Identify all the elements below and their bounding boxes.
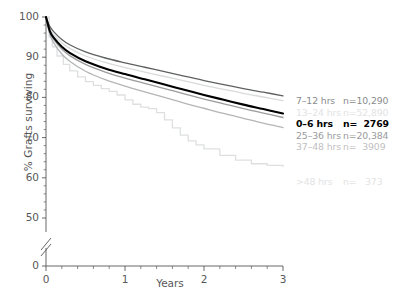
axes-group	[41, 17, 283, 271]
legend-item-count: n= 373	[343, 176, 383, 187]
survival-chart-figure: % Grafts surviving Years 10090807060500 …	[0, 0, 402, 296]
legend: 7–12 hrsn=10,29013–24 hrsn=52,8900–6 hrs…	[296, 95, 402, 188]
legend-item-count: n=10,290	[343, 95, 388, 106]
legend-item-count: n=20,384	[343, 130, 388, 141]
legend-item: 7–12 hrsn=10,290	[296, 95, 402, 107]
x-tick-label: 1	[115, 273, 135, 285]
y-tick-label: 90	[13, 50, 39, 62]
legend-item-label: 25–36 hrs	[296, 130, 343, 141]
y-tick-label: 60	[13, 171, 39, 183]
legend-item-label: 37–48 hrs	[296, 141, 343, 152]
legend-item: 0–6 hrsn= 2769	[296, 118, 402, 130]
y-tick-label: 80	[13, 90, 39, 102]
legend-item: >48 hrsn= 373	[296, 176, 402, 188]
legend-item-label: >48 hrs	[296, 176, 343, 187]
legend-item-count: n= 2769	[343, 118, 389, 129]
legend-spacer	[296, 153, 402, 176]
legend-item: 37–48 hrsn= 3909	[296, 141, 402, 153]
y-tick-label: 0	[13, 259, 39, 271]
legend-item-label: 0–6 hrs	[296, 118, 343, 129]
curves-group	[46, 17, 283, 167]
legend-item: 25–36 hrsn=20,384	[296, 130, 402, 142]
x-tick-label: 3	[273, 273, 293, 285]
legend-item-label: 7–12 hrs	[296, 95, 343, 106]
x-tick-label: 0	[36, 273, 56, 285]
survival-curve	[46, 17, 283, 113]
survival-curve	[46, 17, 283, 167]
y-tick-label: 50	[13, 211, 39, 223]
legend-item-count: n= 3909	[343, 141, 385, 152]
survival-curve	[46, 17, 283, 118]
legend-item-label: 13–24 hrs	[296, 107, 343, 118]
legend-item-count: n=52,890	[343, 107, 388, 118]
y-tick-label: 100	[13, 10, 39, 22]
y-tick-label: 70	[13, 131, 39, 143]
legend-item: 13–24 hrsn=52,890	[296, 107, 402, 119]
x-tick-label: 2	[194, 273, 214, 285]
